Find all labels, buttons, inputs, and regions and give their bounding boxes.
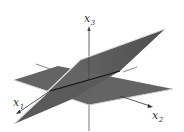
diagram-canvas: x3 x1 x2 — [0, 0, 184, 132]
x1-label: x1 — [13, 96, 24, 111]
x2-axis — [120, 96, 150, 106]
x2-arrowhead — [148, 104, 154, 108]
x2-axis-back — [36, 64, 50, 69]
x3-label: x3 — [84, 12, 96, 27]
planes-diagram: x3 x1 x2 — [0, 0, 184, 132]
x2-label: x2 — [152, 109, 164, 124]
x1-axis-back — [123, 67, 137, 72]
